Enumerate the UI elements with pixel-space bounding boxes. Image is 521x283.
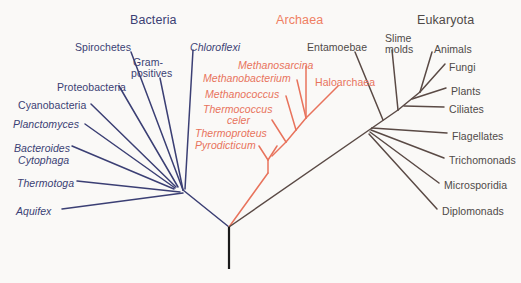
archaea-spine-mid: [272, 142, 286, 156]
archaea-spine-top: [296, 118, 306, 130]
eukaryota-taxon-molds: molds: [385, 44, 413, 55]
bacteria-taxon-chloroflexi: Chloroflexi: [190, 42, 240, 53]
bacteria-taxon-cytophaga: Cytophaga: [18, 155, 69, 166]
eukaryota-taxon-flagellates: Flagellates: [452, 131, 503, 142]
eukaryota-taxon-animals: Animals: [434, 44, 472, 55]
archaea-spine-upper: [286, 130, 296, 142]
archaea-stem: [229, 173, 268, 227]
haloarchaea-branch: [306, 86, 338, 118]
eukaryota-taxon-ciliates: Ciliates: [449, 104, 484, 115]
cyanobacteria-branch: [91, 104, 176, 187]
thermococcus-celer-branch: [272, 120, 286, 142]
thermotoga-branch: [77, 181, 180, 192]
bacteria-taxon-proteobacteria: Proteobacteria: [57, 82, 126, 93]
domain-title-bacteria: Bacteria: [130, 14, 177, 28]
bacteria-taxon-bacteroides: Bacteroides: [14, 143, 70, 154]
eukaryota-taxon-diplomonads: Diplomonads: [442, 206, 504, 217]
bacteria-taxon-spirochetes: Spirochetes: [75, 42, 131, 53]
bacteria-taxon-planctomyces: Planctomyces: [13, 119, 79, 130]
proteobacteria-branch: [119, 86, 178, 187]
microsporidia-branch: [370, 132, 439, 183]
archaea-taxon-pyrodicticum: Pyrodicticum: [195, 140, 256, 151]
slime-molds-branch: [392, 50, 398, 110]
methanobacterium-branch: [297, 80, 306, 118]
flagellates-branch: [372, 128, 447, 133]
eukaryota-taxon-trichomonads: Trichomonads: [449, 155, 516, 166]
aquifex-branch: [62, 193, 183, 209]
euk-crown-link: [372, 110, 398, 128]
gram-positives-branch: [160, 78, 183, 190]
eukaryota-taxon-microsporidia: Microsporidia: [444, 180, 507, 191]
bacteria-taxon-aquifex: Aquifex: [16, 206, 51, 217]
eukaryota-taxon-fungi: Fungi: [449, 62, 476, 73]
trichomonads-branch: [371, 130, 444, 158]
phylogenetic-tree-figure: BacteriaArchaeaEukaryota SpirochetesGram…: [0, 0, 521, 283]
archaea-taxon-haloarchaea: Haloarchaea: [315, 77, 375, 88]
bacteria-taxon-thermotoga: Thermotoga: [17, 178, 74, 189]
archaea-taxon-celer: celer: [227, 115, 250, 126]
eukaryota-taxon-plants: Plants: [451, 86, 480, 97]
ciliates-branch: [404, 106, 444, 107]
methanococcus-branch: [286, 96, 296, 130]
archaea-taxon-thermoproteus: Thermoproteus: [195, 128, 267, 139]
bacteria-taxon-cyanobacteria: Cyanobacteria: [18, 100, 86, 111]
domain-title-eukaryota: Eukaryota: [417, 14, 474, 28]
chloroflexi-branch: [185, 50, 193, 189]
euk-crown-upper-link: [398, 92, 420, 110]
domain-title-archaea: Archaea: [276, 14, 323, 28]
diplomonads-branch: [369, 134, 437, 209]
archaea-taxon-methanococcus: Methanococcus: [205, 89, 279, 100]
bacteria-stem: [183, 190, 229, 227]
eukaryota-taxon-entamoebae: Entamoebae: [307, 42, 367, 53]
archaea-taxon-methanobacterium: Methanobacterium: [203, 73, 291, 84]
archaea-taxon-methanosarcina: Methanosarcina: [238, 60, 313, 71]
pyrodicticum-branch: [259, 146, 268, 160]
bacteria-taxon-positives: positives: [131, 68, 172, 79]
